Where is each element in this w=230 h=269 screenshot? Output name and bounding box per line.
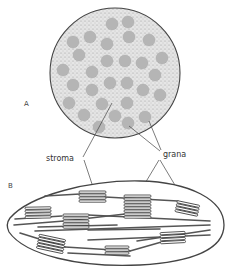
granum-circle (137, 84, 149, 96)
granum-circle (101, 38, 113, 50)
panel-a: A (24, 8, 180, 138)
granum-circle (86, 66, 98, 78)
granum-circle (121, 77, 133, 89)
granum-circle (84, 31, 96, 43)
granum-circle (143, 34, 155, 46)
granum-circle (154, 89, 166, 101)
granum-stack (105, 246, 129, 254)
granum-circle (67, 36, 79, 48)
granum-circle (96, 98, 108, 110)
granum-circle (119, 55, 131, 67)
panel-b: B (7, 181, 224, 265)
panel-label-b: B (8, 182, 13, 190)
granum-circle (101, 55, 113, 67)
granum-circle (63, 97, 75, 109)
granum-circle (86, 84, 98, 96)
granum-circle (149, 69, 161, 81)
stroma-label: stroma (46, 154, 74, 163)
granum-circle (106, 18, 118, 30)
granum-stack (124, 195, 151, 218)
granum-circle (136, 57, 148, 69)
granum-stack (160, 231, 186, 243)
granum-circle (67, 79, 79, 91)
chloroplast-diagram: A stroma grana B (0, 0, 230, 269)
granum-circle (104, 77, 116, 89)
granum-circle (57, 64, 69, 76)
granum-circle (122, 16, 134, 28)
granum-circle (78, 109, 90, 121)
granum-stack (79, 191, 106, 202)
panel-label-a: A (24, 100, 29, 108)
granum-circle (123, 31, 135, 43)
grana-label: grana (163, 150, 186, 159)
granum-circle (109, 110, 121, 122)
granum-stack (63, 214, 89, 228)
granum-circle (121, 97, 133, 109)
granum-stack (25, 207, 51, 219)
granum-circle (156, 52, 168, 64)
granum-circle (73, 49, 85, 61)
granum-circle (122, 117, 134, 129)
